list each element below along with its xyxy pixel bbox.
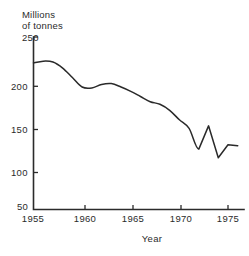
y-axis-label-line1: Millions: [22, 9, 55, 20]
y-tick-label-100: 100: [11, 167, 28, 178]
x-tick-label-1975: 1975: [217, 213, 239, 224]
line-chart: Millions of tonnes 250 200 150 100 50 19…: [0, 0, 249, 256]
x-tick-label-1955: 1955: [22, 213, 44, 224]
x-tick-label-1965: 1965: [122, 213, 144, 224]
y-axis-label-line2: of tonnes: [22, 20, 63, 31]
y-tick-label-150: 150: [11, 124, 28, 135]
y-tick-label-200: 200: [11, 81, 28, 92]
x-tick-label-1960: 1960: [74, 213, 96, 224]
x-axis-title: Year: [142, 233, 162, 244]
x-tick-label-1970: 1970: [170, 213, 192, 224]
axis-lines: [34, 37, 245, 210]
chart-canvas: Millions of tonnes 250 200 150 100 50 19…: [0, 0, 249, 256]
data-series-line: [34, 61, 238, 158]
y-tick-label-50: 50: [17, 201, 28, 212]
